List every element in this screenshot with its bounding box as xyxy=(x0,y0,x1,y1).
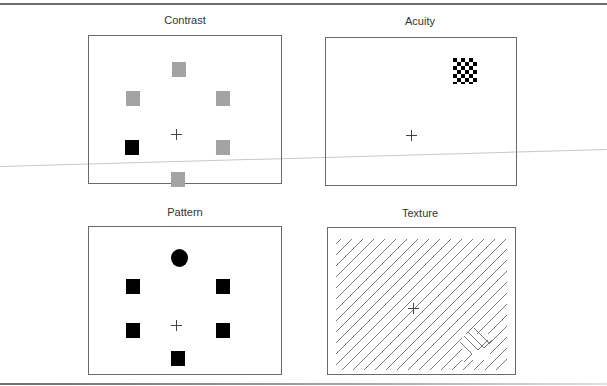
panel-title-texture: Texture xyxy=(323,207,517,219)
distractor-square-lower-right xyxy=(216,140,230,155)
square-lower-right xyxy=(216,323,230,338)
distractor-square-bottom xyxy=(171,172,185,187)
bottom-rule xyxy=(0,383,607,385)
distractor-square-upper-right xyxy=(216,91,230,106)
panel-title-contrast: Contrast xyxy=(88,14,282,26)
square-upper-left xyxy=(126,279,140,294)
distractor-square-upper-left xyxy=(126,91,140,106)
panel-pattern xyxy=(88,226,282,375)
fixation-cross-icon xyxy=(406,130,417,141)
target-circle-top xyxy=(171,249,188,267)
top-rule xyxy=(0,3,607,5)
panel-title-pattern: Pattern xyxy=(88,206,282,218)
panel-texture xyxy=(327,227,516,375)
square-bottom xyxy=(171,351,185,366)
square-lower-left xyxy=(126,323,140,338)
checkerboard-target-icon xyxy=(453,58,477,84)
distractor-square-top xyxy=(172,62,186,77)
panel-contrast xyxy=(88,35,282,184)
fixation-cross-icon xyxy=(171,129,182,140)
panel-title-acuity: Acuity xyxy=(323,15,517,27)
target-square-lower-left xyxy=(125,140,139,155)
fixation-cross-icon xyxy=(408,303,419,314)
square-upper-right xyxy=(216,279,230,294)
diagonal-texture-background xyxy=(328,228,517,376)
fixation-cross-icon xyxy=(171,320,182,331)
panel-acuity xyxy=(325,37,517,186)
